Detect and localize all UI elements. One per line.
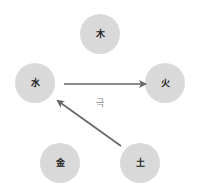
node-metal: 金 — [40, 143, 80, 183]
node-label: 金 — [55, 157, 66, 168]
node-label: 木 — [95, 28, 106, 39]
diagram-svg: 木水火金土 극 — [0, 0, 200, 194]
node-label: 水 — [31, 77, 41, 88]
node-fire: 火 — [145, 63, 185, 103]
edges-layer — [58, 84, 145, 146]
five-elements-diagram: 木水火金土 극 — [0, 0, 200, 194]
arrow-earth-to-water — [58, 101, 121, 146]
node-label: 火 — [161, 78, 171, 88]
node-earth: 土 — [120, 143, 160, 183]
node-label: 土 — [136, 157, 145, 168]
edge-label-geuk: 극 — [96, 98, 104, 108]
node-water: 水 — [15, 63, 55, 103]
node-wood: 木 — [80, 14, 120, 54]
